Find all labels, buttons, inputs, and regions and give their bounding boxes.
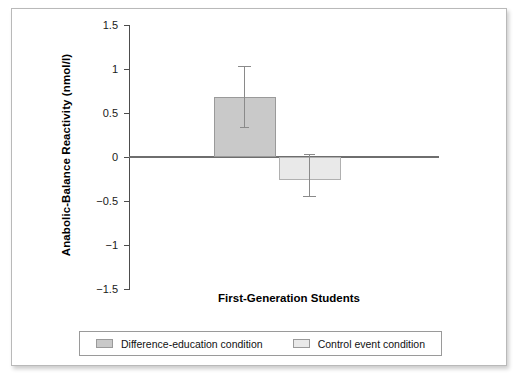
y-tick-mark (124, 25, 130, 26)
y-tick-label: 0.5 (74, 107, 118, 119)
error-bar-cap-lower-control-event-condition (303, 196, 316, 197)
error-bar-cap-upper-difference-education-condition (238, 66, 251, 67)
y-tick-label: −1.5 (74, 283, 118, 295)
y-tick-label: −0.5 (74, 195, 118, 207)
legend-label: Control event condition (318, 338, 425, 350)
error-bar-stem-control-event-condition (309, 154, 310, 196)
chart-legend: Difference-education condition Control e… (79, 331, 442, 356)
chart-plot-area: 1.5 1 0.5 0 −0.5 −1 −1.5 Anabolic-Balanc… (12, 9, 508, 367)
legend-item-difference-education-condition: Difference-education condition (96, 338, 263, 350)
figure-frame: 1.5 1 0.5 0 −0.5 −1 −1.5 Anabolic-Balanc… (11, 8, 507, 366)
legend-item-control-event-condition: Control event condition (293, 338, 425, 350)
error-bar-cap-upper-control-event-condition (304, 154, 315, 155)
error-bar-stem-difference-education-condition (244, 66, 245, 127)
y-axis-label: Anabolic-Balance Reactivity (nmol/l) (60, 35, 72, 275)
y-tick-mark (124, 113, 130, 114)
error-bar-cap-lower-difference-education-condition (240, 127, 249, 128)
legend-swatch-icon (293, 339, 310, 348)
legend-swatch-icon (96, 339, 113, 348)
y-tick-label: 1.5 (74, 19, 118, 31)
y-tick-label: 1 (74, 63, 118, 75)
y-tick-mark (124, 201, 130, 202)
bar-control-event-condition (279, 157, 341, 180)
y-tick-mark (124, 289, 130, 290)
legend-label: Difference-education condition (121, 338, 263, 350)
y-tick-mark (124, 245, 130, 246)
x-axis-label: First-Generation Students (129, 292, 449, 304)
y-tick-mark (124, 69, 130, 70)
y-tick-label: 0 (74, 151, 118, 163)
y-tick-label: −1 (74, 239, 118, 251)
